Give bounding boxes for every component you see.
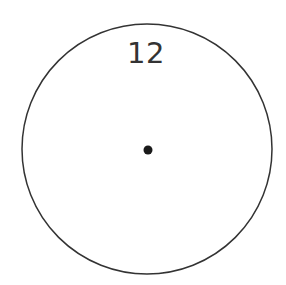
clock-face-diagram: 12 (0, 0, 286, 285)
hour-label-12: 12 (127, 36, 165, 70)
clock-figure-svg: 12 (0, 0, 286, 285)
clock-center-dot (144, 146, 153, 155)
